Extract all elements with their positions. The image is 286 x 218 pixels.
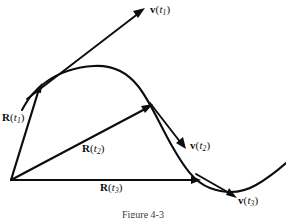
label-r-t1-close: ) [21,111,25,123]
velocity-vector-v-t2 [150,103,186,149]
label-r-t3-symbol: R [100,181,108,193]
v-t1-shaft [27,13,139,99]
figure-container: v(t1) v(t2) v(t3) R(t1) R(t2) R(t3) Figu… [0,0,286,218]
label-v-t2-close: ) [206,139,210,151]
r-t2-shaft [11,108,147,180]
label-r-t2-close: ) [101,142,105,154]
label-v-t1: v(t1) [150,4,170,17]
label-v-t3-close: ) [254,194,258,206]
label-r-t3: R(t3) [100,182,123,195]
label-r-t2-symbol: R [82,142,90,154]
label-r-t2: R(t2) [82,143,105,156]
trajectory-curve [22,66,286,192]
label-v-t1-close: ) [166,3,170,15]
velocity-vector-v-t1 [27,8,145,99]
label-r-t3-close: ) [119,181,123,193]
velocity-vector-v-t3 [196,174,237,198]
figure-caption: Figure 4-3 [0,209,286,218]
label-r-t1: R(t1) [2,112,25,125]
label-r-t1-symbol: R [2,111,10,123]
v-t3-arrowhead [226,188,237,198]
label-v-t3: v(t3) [238,195,258,208]
label-v-t2: v(t2) [190,140,210,153]
vector-diagram-canvas [0,0,286,218]
v-t2-shaft [150,103,181,143]
